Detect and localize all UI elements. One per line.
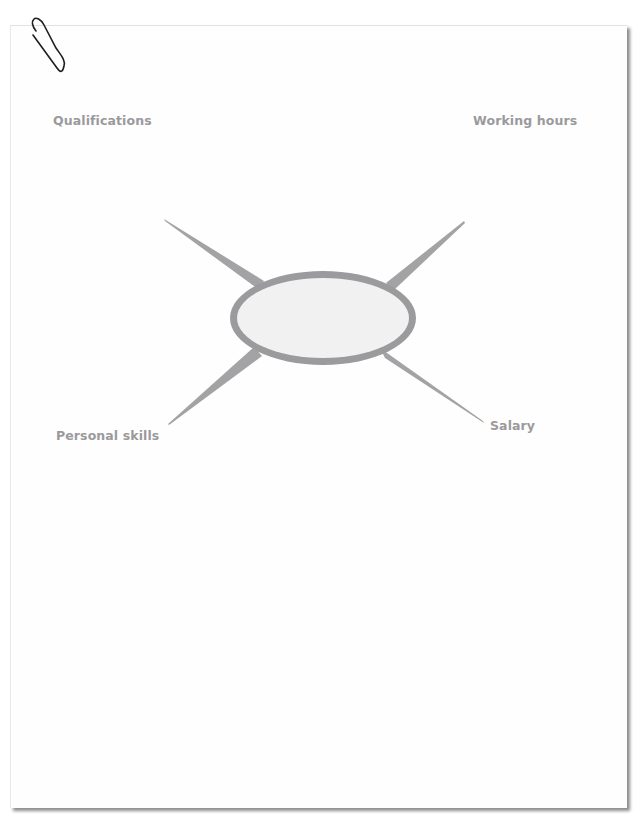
branch-working-hours <box>386 221 465 290</box>
branch-salary <box>380 348 484 423</box>
branch-qualifications <box>164 219 264 289</box>
label-salary: Salary <box>490 418 535 433</box>
label-personal-skills: Personal skills <box>56 428 159 443</box>
paperclip-icon <box>33 18 65 71</box>
label-working-hours: Working hours <box>473 113 577 128</box>
branch-personal-skills <box>168 347 262 425</box>
label-qualifications: Qualifications <box>53 113 152 128</box>
central-node <box>237 278 409 358</box>
